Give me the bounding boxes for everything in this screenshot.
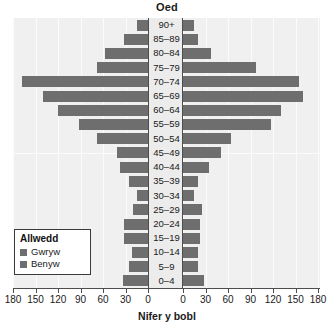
x-axis-tick [126, 288, 127, 293]
age-label: 40–44 [13, 160, 320, 174]
legend-item-gwryw: Gwryw [20, 246, 85, 258]
legend-swatch-gwryw [20, 249, 27, 256]
x-axis-tick [273, 288, 274, 293]
population-pyramid-chart: Oed 0–45–910–1415–1920–2425–2930–3435–39… [0, 0, 334, 329]
x-axis-tick-label: 0 [133, 294, 163, 305]
age-label: 50–54 [13, 132, 320, 146]
age-label: 0–4 [13, 274, 320, 288]
age-label: 45–49 [13, 146, 320, 160]
legend-label-gwryw: Gwryw [31, 246, 60, 258]
legend: Allwedd Gwryw Benyw [14, 229, 91, 275]
legend-swatch-benyw [20, 261, 27, 268]
age-label: 85–89 [13, 32, 320, 46]
x-axis-tick [318, 288, 319, 293]
age-label: 25–29 [13, 203, 320, 217]
top-axis-title: Oed [0, 1, 334, 13]
x-axis-tick [13, 288, 14, 293]
x-axis-tick [183, 288, 184, 293]
x-axis-tick-label: 180 [303, 294, 333, 305]
legend-label-benyw: Benyw [31, 258, 60, 270]
age-label: 60–64 [13, 103, 320, 117]
x-axis-tick [81, 288, 82, 293]
x-axis-tick [36, 288, 37, 293]
x-axis-tick [296, 288, 297, 293]
age-label: 75–79 [13, 61, 320, 75]
x-axis-tick [251, 288, 252, 293]
age-label: 65–69 [13, 89, 320, 103]
x-axis-tick [228, 288, 229, 293]
age-label: 90+ [13, 18, 320, 32]
legend-title: Allwedd [20, 233, 85, 244]
x-axis-tick [103, 288, 104, 293]
age-label: 30–34 [13, 189, 320, 203]
age-label: 55–59 [13, 117, 320, 131]
bottom-axis-title: Nifer y bobl [0, 310, 334, 322]
age-label: 35–39 [13, 174, 320, 188]
legend-item-benyw: Benyw [20, 258, 85, 270]
age-label: 70–74 [13, 75, 320, 89]
x-axis-tick [206, 288, 207, 293]
x-axis-tick [148, 288, 149, 293]
x-axis-tick [58, 288, 59, 293]
age-label: 80–84 [13, 46, 320, 60]
